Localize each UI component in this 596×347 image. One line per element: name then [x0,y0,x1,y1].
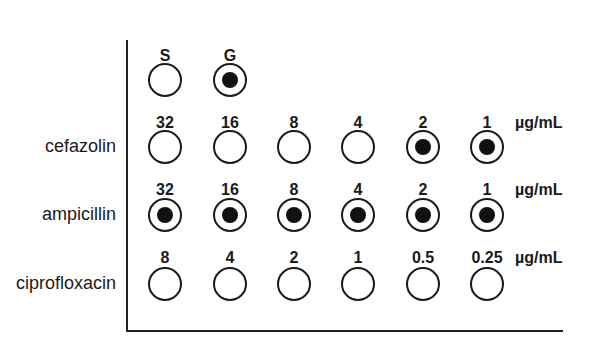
growth-dot-icon [286,207,302,223]
dilution-well [406,198,440,232]
dilution-well [213,130,247,164]
growth-dot-icon [479,139,495,155]
dilution-well [341,198,375,232]
dilution-well [277,267,311,301]
growth-dot-icon [479,207,495,223]
concentration-label: 1 [457,182,517,198]
growth-dot-icon [222,72,238,88]
growth-dot-icon [415,207,431,223]
concentration-label: 8 [135,250,195,266]
concentration-label: 16 [200,182,260,198]
concentration-label: 2 [264,250,324,266]
concentration-label: 0.25 [457,250,517,266]
growth-dot-icon [415,139,431,155]
dilution-well [406,267,440,301]
concentration-label: 32 [135,115,195,131]
growth-dot-icon [350,207,366,223]
sterility-control-well [148,63,182,97]
growth-dot-icon [157,207,173,223]
dilution-well [148,267,182,301]
unit-label: µg/mL [515,182,562,198]
concentration-label: 4 [200,250,260,266]
dilution-well [470,267,504,301]
concentration-label: 8 [264,182,324,198]
drug-label: ampicillin [42,204,116,224]
concentration-label: 8 [264,115,324,131]
concentration-label: 2 [393,115,453,131]
dilution-well [277,198,311,232]
dilution-well [277,130,311,164]
dilution-well [470,130,504,164]
drug-label: cefazolin [45,136,116,156]
concentration-label: 1 [328,250,388,266]
concentration-label: 32 [135,182,195,198]
growth-control-well [213,63,247,97]
dilution-well [470,198,504,232]
control-label: S [135,48,195,64]
dilution-well [148,198,182,232]
dilution-well [341,130,375,164]
horizontal-axis-line [126,330,563,332]
unit-label: µg/mL [515,115,562,131]
concentration-label: 1 [457,115,517,131]
dilution-well [148,130,182,164]
dilution-well [213,198,247,232]
dilution-well [213,267,247,301]
unit-label: µg/mL [515,250,562,266]
dilution-well [341,267,375,301]
concentration-label: 4 [328,115,388,131]
dilution-well [406,130,440,164]
concentration-label: 2 [393,182,453,198]
vertical-axis-line [126,40,128,332]
concentration-label: 4 [328,182,388,198]
growth-dot-icon [222,207,238,223]
concentration-label: 0.5 [393,250,453,266]
control-label: G [200,48,260,64]
concentration-label: 16 [200,115,260,131]
drug-label: ciprofloxacin [16,273,116,293]
